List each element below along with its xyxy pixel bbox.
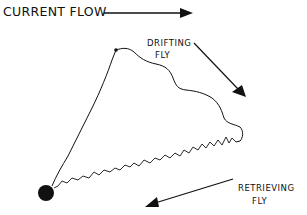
retrieving-direction-arrow-icon: [145, 179, 233, 207]
angler-position-marker: [38, 185, 54, 201]
cast-point-marker: [114, 48, 118, 52]
drift-path: [116, 48, 243, 142]
retrieve-path: [54, 137, 236, 188]
current-flow-arrow-icon: [104, 8, 193, 18]
cast-line: [52, 50, 116, 186]
drift-diagram: [0, 0, 307, 215]
drifting-direction-arrow-icon: [194, 43, 246, 97]
